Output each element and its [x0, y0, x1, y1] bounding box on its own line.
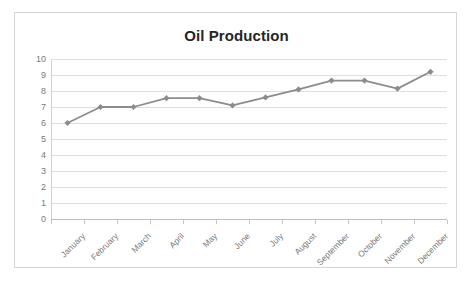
x-axis-tick [414, 220, 415, 224]
data-point-marker [97, 104, 103, 110]
data-point-marker [295, 86, 301, 92]
data-series-line [51, 59, 447, 219]
y-axis-tick-label: 9 [41, 70, 46, 80]
y-axis-tick-label: 5 [41, 134, 46, 144]
data-point-marker [328, 78, 334, 84]
chart-container: Oil Production 012345678910 JanuaryFebru… [14, 12, 457, 268]
x-axis-tick [183, 220, 184, 224]
data-point-marker [229, 102, 235, 108]
x-axis-tick [117, 220, 118, 224]
x-axis-tick [381, 220, 382, 224]
x-axis-tick [282, 220, 283, 224]
x-axis-tick-label: December [415, 231, 450, 266]
y-axis-tick-label: 3 [41, 166, 46, 176]
data-point-marker [196, 95, 202, 101]
data-point-markers [64, 69, 433, 126]
data-point-marker [163, 95, 169, 101]
data-point-marker [394, 86, 400, 92]
x-axis-tick [447, 220, 448, 224]
x-axis-tick [348, 220, 349, 224]
x-axis-tick [249, 220, 250, 224]
x-axis-tick [216, 220, 217, 224]
data-point-marker [427, 69, 433, 75]
plot-area: 012345678910 JanuaryFebruaryMarchAprilMa… [51, 59, 447, 219]
x-axis-tick-label: September [314, 231, 350, 267]
y-axis-tick-label: 7 [41, 102, 46, 112]
data-point-marker [64, 120, 70, 126]
data-point-marker [361, 78, 367, 84]
x-axis-tick-label: January [58, 231, 86, 259]
x-axis-tick-label: October [355, 231, 383, 259]
x-axis-tick-label: November [382, 231, 417, 266]
x-axis-tick-label: August [292, 231, 318, 257]
y-axis-tick-label: 1 [41, 198, 46, 208]
y-axis-tick-label: 0 [41, 214, 46, 224]
x-axis-tick [84, 220, 85, 224]
y-axis-tick-label: 2 [41, 182, 46, 192]
x-axis-tick-label: May [200, 231, 218, 249]
y-axis-tick-label: 6 [41, 118, 46, 128]
x-axis-tick [51, 220, 52, 224]
data-point-marker [130, 104, 136, 110]
x-axis-tick [150, 220, 151, 224]
x-axis-tick-label: July [267, 231, 285, 249]
x-axis-tick-label: April [166, 231, 185, 250]
x-axis-tick [315, 220, 316, 224]
data-point-marker [262, 94, 268, 100]
x-axis-tick-label: June [231, 231, 251, 251]
y-axis-tick-label: 10 [36, 54, 46, 64]
chart-title: Oil Production [15, 27, 458, 44]
x-axis-tick-label: March [129, 231, 153, 255]
x-axis-tick-label: February [88, 231, 119, 262]
y-axis-tick-label: 8 [41, 86, 46, 96]
y-axis-tick-label: 4 [41, 150, 46, 160]
